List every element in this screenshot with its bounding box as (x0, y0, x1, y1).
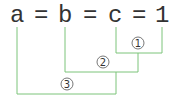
circled-label-1: 1 (132, 37, 144, 49)
svg-text:3: 3 (64, 79, 70, 90)
token-a: a (10, 2, 24, 29)
assignment-chain-diagram: a = b = c = 1 1 2 3 (0, 0, 174, 97)
token-1: 1 (155, 2, 169, 29)
token-equals-2: = (83, 2, 97, 29)
svg-text:2: 2 (100, 57, 106, 68)
token-equals-1: = (34, 2, 48, 29)
token-equals-3: = (132, 2, 146, 29)
circled-label-2: 2 (97, 56, 109, 68)
token-b: b (58, 2, 72, 29)
circled-label-3: 3 (61, 78, 73, 90)
svg-text:1: 1 (135, 38, 141, 49)
token-c: c (108, 2, 122, 29)
